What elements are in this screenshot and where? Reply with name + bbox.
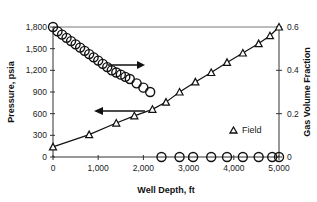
field-triangle-marker [255, 40, 262, 47]
gvf-circle-marker [146, 88, 155, 97]
field-triangle-marker [192, 78, 199, 85]
x-tick-label: 1,000 [88, 163, 110, 173]
field-triangle-marker [86, 131, 93, 138]
field-triangle-marker [113, 120, 120, 127]
chart: 01,0002,0003,0004,0005,00003006009001,20… [0, 0, 317, 202]
field-triangle-marker [239, 50, 246, 57]
y2-axis-label: Gas Volume Fraction [302, 47, 312, 136]
arrow-left-icon [94, 107, 103, 115]
legend-label-field: Field [242, 125, 262, 135]
y-tick-label: 300 [33, 130, 47, 140]
y2-tick-label: 0.2 [287, 109, 299, 119]
x-tick-label: 0 [51, 163, 56, 173]
y2-tick-label: 0.4 [287, 65, 299, 75]
arrow-left-annotation [94, 107, 145, 115]
x-tick-label: 2,000 [133, 163, 155, 173]
y-tick-label: 1,200 [26, 65, 48, 75]
y-tick-label: 0 [42, 152, 47, 162]
y-tick-label: 1,800 [26, 22, 48, 32]
y-tick-label: 600 [33, 109, 47, 119]
y-axis-label: Pressure, psia [6, 60, 16, 123]
triangle-marker-icon [230, 127, 237, 133]
y2-tick-label: 0.6 [287, 22, 299, 32]
plot-area [49, 23, 284, 162]
field-triangle-marker [149, 106, 156, 113]
field-triangle-marker [208, 69, 215, 76]
y2-tick-label: 0 [287, 152, 292, 162]
x-tick-label: 3,000 [178, 163, 200, 173]
arrow-right-icon [137, 61, 145, 69]
x-tick-label: 5,000 [268, 163, 290, 173]
x-axis-label: Well Depth, ft [137, 185, 194, 195]
field-triangle-marker [224, 59, 231, 65]
y-tick-label: 1,500 [26, 44, 48, 54]
field-triangle-marker [176, 89, 183, 96]
legend: Field [230, 125, 262, 135]
arrow-right-annotation [108, 61, 145, 69]
y-tick-label: 900 [33, 87, 47, 97]
x-tick-label: 4,000 [223, 163, 245, 173]
